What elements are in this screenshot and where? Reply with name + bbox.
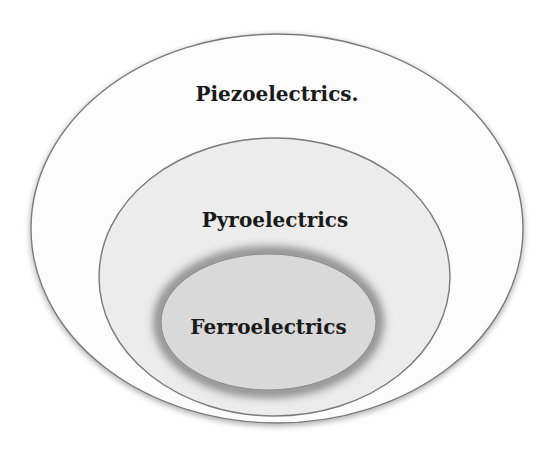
piezoelectrics-label: Piezoelectrics.: [195, 82, 358, 106]
ferroelectrics-label: Ferroelectrics: [190, 315, 346, 339]
nested-set-diagram: Piezoelectrics. Pyroelectrics Ferroelect…: [0, 0, 554, 449]
diagram-canvas: Piezoelectrics. Pyroelectrics Ferroelect…: [0, 0, 554, 449]
set-ferroelectrics: Ferroelectrics: [159, 252, 378, 392]
pyroelectrics-label: Pyroelectrics: [202, 208, 349, 232]
